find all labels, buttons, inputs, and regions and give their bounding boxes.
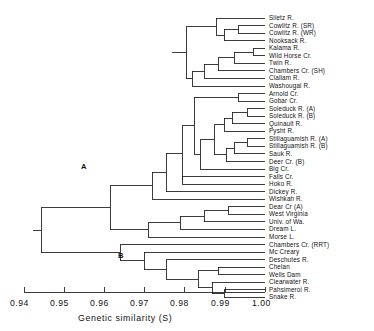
leaf-label: Big Cr.	[269, 166, 289, 172]
dendrogram-figure: Siletz R. Cowlitz R. (SR) Cowlitz R. (WR…	[0, 0, 374, 331]
x-tick-label: 0.95	[50, 299, 69, 308]
leaf-label: Washougal R.	[269, 83, 310, 89]
x-tick-label: 1.00	[252, 299, 271, 308]
leaf-label: Snake R.	[269, 294, 296, 300]
leaf-label: Wishkah R.	[269, 196, 303, 202]
leaf-label: Cowlitz R. (WR)	[269, 30, 316, 36]
x-tick-label: 0.97	[130, 299, 149, 308]
leaf-label: Wild Horse Cr.	[269, 53, 312, 59]
leaf-label: Clearwater R.	[269, 279, 309, 285]
leaf-label: Soleduck R. (A)	[269, 106, 315, 112]
leaf-label: Falls Cr.	[269, 174, 293, 180]
leaf-label: Univ. of Wa.	[269, 219, 304, 225]
leaf-label: Stillaguamish R. (B)	[269, 143, 328, 149]
leaf-label: Pysht R.	[269, 128, 294, 134]
leaf-label: Hoko R.	[269, 181, 293, 187]
leaf-label: West Virginia	[269, 211, 308, 217]
leaf-label: Clallam R.	[269, 75, 300, 81]
leaf-label: Quinault R.	[269, 121, 302, 127]
leaf-label: Twin R.	[269, 60, 291, 66]
leaf-label: Mc Creary	[269, 249, 299, 255]
cluster-label-b: B	[118, 251, 123, 260]
leaf-label: Chambers Cr. (SH)	[269, 68, 325, 74]
leaf-label: Pahsimeroi R.	[269, 287, 311, 293]
leaf-label: Dream L.	[269, 226, 296, 232]
leaf-label: Kalama R.	[269, 45, 300, 51]
leaf-label: Cowlitz R. (SR)	[269, 23, 314, 29]
leaf-label: Nooksack R.	[269, 38, 306, 44]
cluster-label-a: A	[81, 162, 86, 171]
leaf-label: Sauk R.	[269, 151, 292, 157]
leaf-label: Deer Cr. (B)	[269, 159, 304, 165]
leaf-label: Siletz R.	[269, 15, 294, 21]
leaf-label: Deschutes R.	[269, 257, 309, 263]
leaf-label: Dickey R.	[269, 189, 297, 195]
x-tick-label: 0.94	[10, 299, 29, 308]
x-tick-label: 0.99	[211, 299, 230, 308]
dendrogram-plot	[0, 0, 374, 331]
leaf-label: Stillaguamish R. (A)	[269, 136, 328, 142]
leaf-label: Chambers Cr. (RRT)	[269, 242, 329, 248]
leaf-label: Soleduck R. (B)	[269, 113, 315, 119]
x-axis-title: Genetic similarity (S)	[78, 313, 172, 323]
leaf-label: Morse L.	[269, 234, 295, 240]
leaf-label: Wells Dam	[269, 272, 301, 278]
leaf-label: Arnold Cr.	[269, 91, 299, 97]
leaf-label: Gobar Cr.	[269, 98, 298, 104]
x-tick-label: 0.98	[170, 299, 189, 308]
leaf-label: Chelan	[269, 264, 290, 270]
x-tick-label: 0.96	[90, 299, 109, 308]
leaf-label: Dear Cr (A)	[269, 204, 303, 210]
